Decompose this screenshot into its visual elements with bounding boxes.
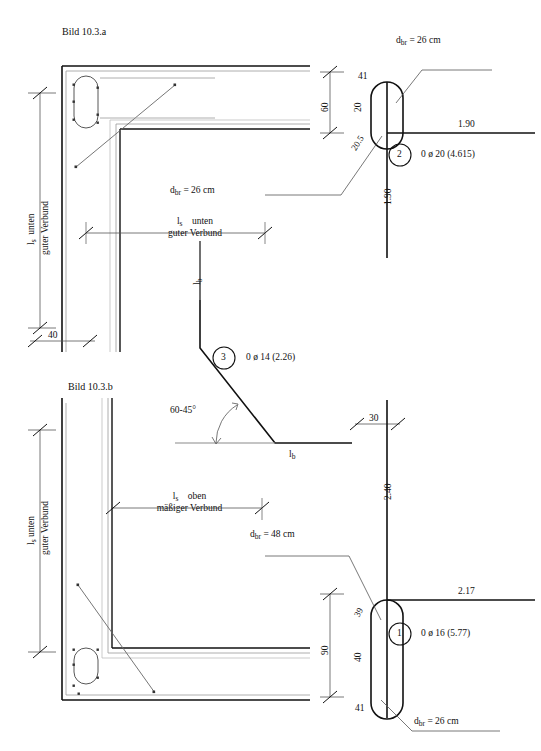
ls-symbol: l xyxy=(26,242,36,245)
mark-1-text: 0 ø 16 (5.77) xyxy=(421,629,470,639)
bar-detail-3 xyxy=(175,300,352,444)
bend-note-leader-top-left xyxy=(265,136,382,195)
mark-3-number: 3 xyxy=(221,353,226,363)
bar1-top-width-dim: 30 xyxy=(369,414,379,424)
ls-qualifier-h: unten xyxy=(192,216,213,226)
dbr-subscript-bt: br xyxy=(255,532,261,541)
guter-verbund-label-b: guter Verbund xyxy=(40,501,50,555)
bend-note-bottom-bottom: dbr = 26 cm xyxy=(414,717,459,728)
lb-label-bottom: lb xyxy=(289,450,295,461)
bottom-figure-stirrup xyxy=(73,648,99,695)
bar1-bottom-hook: 41 xyxy=(355,704,365,714)
top-width-dim-value: 40 xyxy=(48,331,58,341)
bar2-horizontal-length: 1.90 xyxy=(458,120,475,130)
ls-subscript-bh: s xyxy=(175,494,178,503)
massiger-verbund-label: mäßiger Verbund xyxy=(157,503,223,513)
bar-detail-1 xyxy=(371,400,535,719)
guter-verbund-label-h: guter Verbund xyxy=(168,228,222,238)
top-figure-concrete-outline xyxy=(62,66,310,352)
bottom-figure-diagonal-bar xyxy=(77,584,156,694)
mark-2-text: 0 ø 20 (4.615) xyxy=(421,150,475,160)
bottom-horizontal-dimension-label: ls oben mäßiger Verbund xyxy=(122,491,257,515)
dbr-value-tr: = 26 cm xyxy=(409,35,440,45)
dbr-value-bb: = 26 cm xyxy=(427,716,458,726)
mark-1-number: 1 xyxy=(397,629,402,639)
bend-angle-label: 60-45° xyxy=(170,406,196,416)
ls-subscript: s xyxy=(29,239,38,242)
ls-symbol-b: l xyxy=(26,542,36,545)
lb-subscript-bot: b xyxy=(292,452,296,461)
dbr-subscript-tr: br xyxy=(401,38,407,47)
ls-qualifier-b: unten xyxy=(26,516,36,537)
figure-title-top: Bild 10.3.a xyxy=(62,27,106,38)
bend-note-top-right: dbr = 26 cm xyxy=(396,36,441,47)
bend-note-top-left: dbr = 26 cm xyxy=(170,186,215,197)
drawing-canvas: Bild 10.3.a Bild 10.3.b ls unten guter V… xyxy=(0,0,541,751)
bar1-horizontal-length: 2.17 xyxy=(458,587,475,597)
bar-detail-2 xyxy=(371,82,535,258)
top-horizontal-dimension-label: ls unten guter Verbund xyxy=(130,216,260,240)
dbr-value-bt: = 48 cm xyxy=(263,529,294,539)
mark-3-text: 0 ø 14 (2.26) xyxy=(246,353,295,363)
guter-verbund-label: guter Verbund xyxy=(40,201,50,255)
dbr-subscript-bb: br xyxy=(419,719,425,728)
dbr-value-tl: = 26 cm xyxy=(183,185,214,195)
length-240: 2.40 xyxy=(383,483,393,500)
lb-symbol-top: l xyxy=(192,282,202,285)
figure-title-bottom: Bild 10.3.b xyxy=(68,382,113,393)
ls-subscript-h: s xyxy=(180,219,183,228)
bar2-hook-label: 41 xyxy=(358,72,368,82)
height-60: 60 xyxy=(320,103,330,113)
top-figure-stirrup xyxy=(73,76,99,128)
ls-qualifier-bh: oben xyxy=(188,491,206,501)
bend-note-bottom-top: dbr = 48 cm xyxy=(250,530,295,541)
segment-40: 40 xyxy=(353,653,363,663)
mark-2-number: 2 xyxy=(397,150,402,160)
segment-20: 20 xyxy=(353,103,363,113)
length-190-v: 1.90 xyxy=(383,188,393,205)
lb-subscript-top: b xyxy=(195,279,204,283)
ls-qualifier: unten xyxy=(26,214,36,235)
height-90: 90 xyxy=(320,646,330,656)
bend-note-leader-top-right xyxy=(396,70,492,103)
ls-subscript-b: s xyxy=(29,539,38,542)
dbr-subscript-tl: br xyxy=(175,188,181,197)
